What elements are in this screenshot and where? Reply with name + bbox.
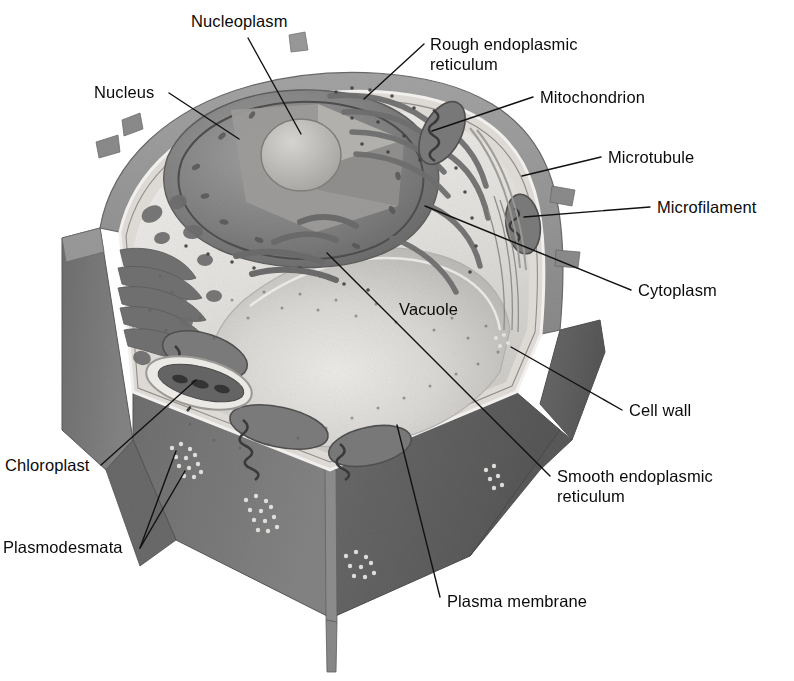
label-nucleoplasm: Nucleoplasm (191, 11, 287, 31)
cell-wall-corner-spur (326, 620, 337, 672)
label-plasma-membrane: Plasma membrane (447, 591, 587, 611)
label-cytoplasm: Cytoplasm (638, 280, 717, 300)
nucleolus (261, 119, 341, 191)
cell-illustration (0, 0, 794, 681)
label-smooth-endoplasmic-reticulum: Smooth endoplasmic reticulum (557, 466, 713, 506)
cell-wall-corner-rib (325, 468, 337, 622)
label-plasmodesmata: Plasmodesmata (3, 537, 123, 557)
label-mitochondrion: Mitochondrion (540, 87, 645, 107)
label-rough-endoplasmic-reticulum: Rough endoplasmic reticulum (430, 34, 578, 74)
label-vacuole: Vacuole (399, 299, 458, 319)
cell-wall-spike-e (555, 250, 580, 268)
plant-cell-figure: Nucleoplasm Nucleus Rough endoplasmic re… (0, 0, 794, 681)
cell-wall-spike-c (289, 32, 308, 52)
label-chloroplast: Chloroplast (5, 455, 90, 475)
cell-wall-spike-b (122, 113, 143, 136)
cell-wall-spike-d (550, 186, 575, 206)
label-microtubule: Microtubule (608, 147, 694, 167)
label-cell-wall: Cell wall (629, 400, 691, 420)
label-nucleus: Nucleus (94, 82, 154, 102)
cell-wall-spike-a (96, 135, 120, 158)
label-microfilament: Microfilament (657, 197, 756, 217)
